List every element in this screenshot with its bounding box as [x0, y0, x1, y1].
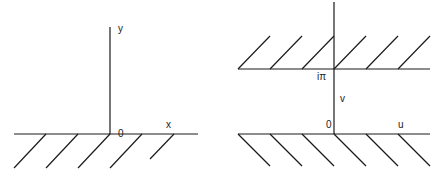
- conformal-map-diagram: y 0 x iπ v 0 u: [0, 0, 446, 178]
- left-diagram: y 0 x: [14, 23, 198, 168]
- left-origin-label: 0: [118, 128, 124, 139]
- left-boundary-hatching: [14, 134, 174, 168]
- bottom-boundary-hatching: [238, 134, 430, 166]
- u-axis-label: u: [398, 119, 404, 130]
- right-diagram: iπ v 0 u: [238, 2, 430, 166]
- i-pi-label: iπ: [317, 71, 326, 82]
- y-axis-label: y: [118, 23, 123, 34]
- x-axis-label: x: [166, 119, 171, 130]
- v-axis-label: v: [340, 93, 345, 104]
- right-origin-label: 0: [326, 119, 332, 130]
